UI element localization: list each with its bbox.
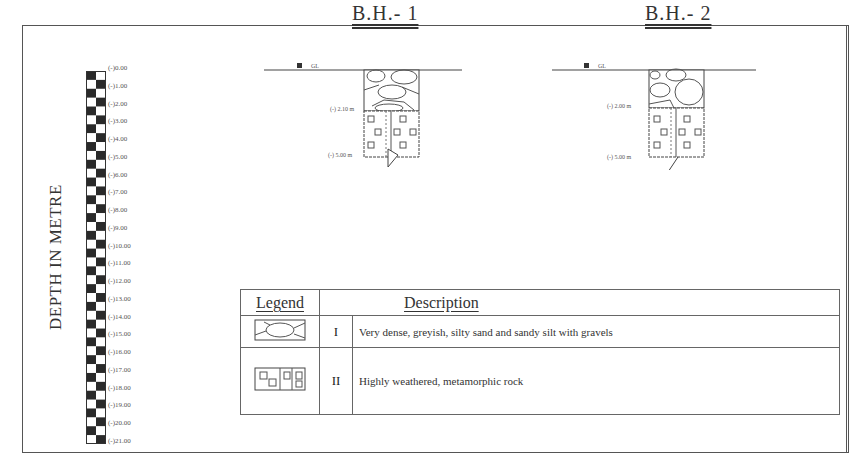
depth-tick-label: (-)10.00 (108, 242, 131, 250)
depth-tick-label: (-)2.00 (108, 100, 127, 108)
layer-number: II (320, 347, 353, 414)
depth-tick-label: (-)14.00 (108, 313, 131, 321)
borehole-1-ground-label: GL (311, 63, 319, 69)
layer-description: Very dense, greyish, silty sand and sand… (353, 316, 840, 348)
depth-scale-bar (86, 71, 106, 444)
layer-number: I (320, 316, 353, 348)
depth-tick-label: (-)3.00 (108, 117, 127, 125)
depth-tick-label: (-)5.00 (108, 153, 127, 161)
depth-tick-label: (-)20.00 (108, 419, 131, 427)
legend-row: I Very dense, greyish, silty sand and sa… (241, 316, 840, 348)
borehole-2-title: B.H.- 2 (645, 2, 711, 25)
depth-tick-label: (-)15.00 (108, 330, 131, 338)
borehole-2-layer-boundary: (-) 2.00 m (607, 103, 631, 109)
depth-tick-label: (-)21.00 (108, 437, 131, 445)
weathered-rock-symbol-icon (254, 367, 306, 391)
water-table-icon (297, 63, 302, 68)
depth-tick-label: (-)1.00 (108, 82, 127, 90)
depth-tick-label: (-)11.00 (108, 259, 130, 267)
borehole-1-log (264, 60, 464, 174)
depth-tick-label: (-)17.00 (108, 366, 131, 374)
depth-tick-label: (-)19.00 (108, 401, 131, 409)
borehole-1-bottom-depth: (-) 5.00 m (328, 152, 352, 158)
depth-tick-label: (-)12.00 (108, 277, 131, 285)
borehole-2-log (552, 60, 772, 174)
depth-tick-label: (-)8.00 (108, 206, 127, 214)
depth-tick-label: (-)0.00 (108, 64, 127, 72)
depth-tick-label: (-)18.00 (108, 384, 131, 392)
depth-tick-label: (-)6.00 (108, 171, 127, 179)
depth-tick-label: (-)16.00 (108, 348, 131, 356)
legend-header: Legend (241, 290, 320, 316)
depth-tick-label: (-)9.00 (108, 224, 127, 232)
borehole-2-bottom-depth: (-) 5.00 m (607, 154, 631, 160)
depth-tick-label: (-)4.00 (108, 135, 127, 143)
legend-table: Legend Description I Very dense, greyish… (240, 289, 840, 415)
layer-description: Highly weathered, metamorphic rock (353, 347, 840, 414)
depth-tick-label: (-)7.00 (108, 188, 127, 196)
y-axis-label: DEPTH IN METRE (46, 184, 66, 330)
water-table-icon (584, 63, 589, 68)
depth-tick-label: (-)13.00 (108, 295, 131, 303)
gravel-sand-symbol-icon (254, 319, 306, 341)
description-header: Description (320, 290, 840, 316)
borehole-2-ground-label: GL (598, 63, 606, 69)
borehole-1-layer-boundary: (-) 2.10 m (330, 106, 354, 112)
legend-row: II Highly weathered, metamorphic rock (241, 347, 840, 414)
borehole-1-title: B.H.- 1 (352, 2, 418, 25)
